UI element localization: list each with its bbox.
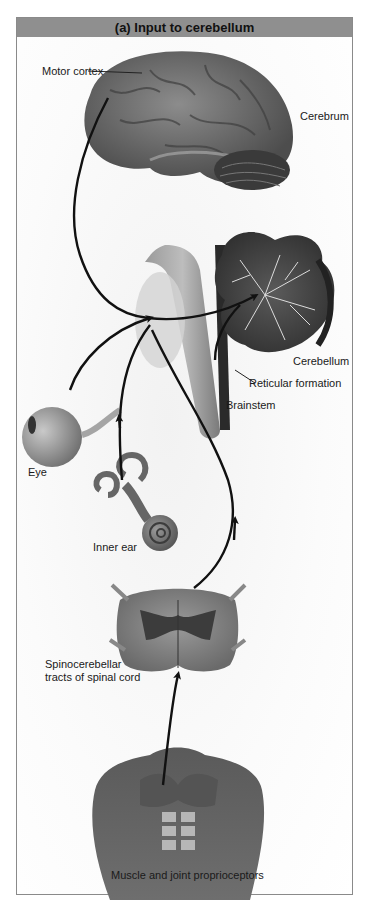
label-cerebrum: Cerebrum <box>300 110 349 123</box>
label-spinocerebellar-line1: Spinocerebellar <box>45 658 121 671</box>
label-cerebellum: Cerebellum <box>293 355 349 368</box>
label-inner-ear: Inner ear <box>93 541 137 554</box>
label-reticular-formation: Reticular formation <box>249 377 341 390</box>
spinal-cord-illustration <box>110 585 245 671</box>
cerebellum-illustration <box>215 232 335 352</box>
label-brainstem: Brainstem <box>226 399 276 412</box>
inner-ear-illustration <box>96 455 178 551</box>
label-spinocerebellar-line2: tracts of spinal cord <box>45 671 140 684</box>
eye-illustration <box>22 407 120 467</box>
spinal-arrowhead <box>234 520 235 540</box>
label-motor-cortex: Motor cortex <box>42 65 103 78</box>
label-eye: Eye <box>28 466 47 479</box>
inner-ear-arrowhead <box>119 418 120 428</box>
anatomy-illustration <box>0 0 369 907</box>
label-proprioceptors: Muscle and joint proprioceptors <box>111 869 264 882</box>
